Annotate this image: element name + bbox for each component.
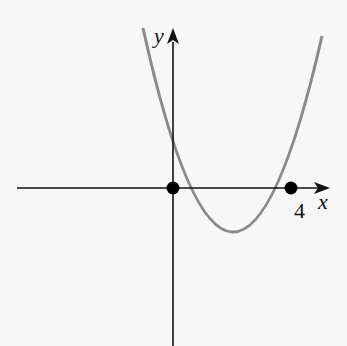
origin-point <box>167 182 180 195</box>
root-4-point <box>285 182 298 195</box>
x-tick-label-4: 4 <box>294 198 305 223</box>
parabola-graph: y x 4 <box>0 0 347 346</box>
graph-svg: y x 4 <box>0 0 347 346</box>
y-axis-arrow-icon <box>167 28 179 44</box>
x-axis-label: x <box>317 189 328 214</box>
y-axis-label: y <box>152 23 164 48</box>
